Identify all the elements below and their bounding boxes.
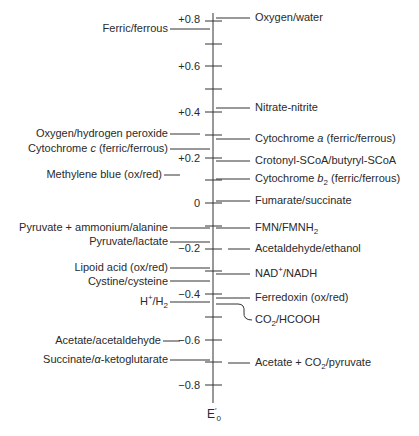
tick-label: +0.6 [160, 60, 200, 73]
couple-label: Cytochrome c (ferric/ferrous) [28, 142, 168, 155]
couple-label: Acetate/acetaldehyde [55, 334, 161, 347]
couple-label: Fumarate/succinate [255, 194, 352, 207]
axis-title: E′0 [207, 407, 221, 421]
couple-label: Pyruvate + ammonium/alanine [19, 221, 168, 234]
couple-label: Ferredoxin (ox/red) [255, 291, 349, 304]
couple-label: FMN/FMNH2 [255, 221, 318, 234]
couple-label: Cytochrome a (ferric/ferrous) [255, 132, 396, 145]
couple-label: Oxygen/water [255, 11, 323, 24]
couple-label: Crotonyl-SCoA/butyryl-SCoA [255, 154, 396, 167]
redox-potential-diagram: +0.8 +0.6 +0.4 +0.2 0 −0.2 −0.4 −0.6 −0.… [0, 0, 419, 436]
couple-label: Succinate/α-ketoglutarate [43, 353, 168, 366]
couple-label: Cystine/cysteine [88, 275, 168, 288]
couple-label: H+/H2 [140, 295, 168, 308]
couple-label: Acetate + CO2/pyruvate [255, 356, 371, 369]
couple-label: Oxygen/hydrogen peroxide [36, 127, 168, 140]
couple-label: Methylene blue (ox/red) [46, 168, 162, 181]
couple-label: Cytochrome b2 (ferric/ferrous) [255, 172, 400, 185]
tick-label: −0.6 [160, 334, 200, 347]
couple-label: NAD+/NADH [255, 267, 317, 280]
couple-label: Acetaldehyde/ethanol [255, 242, 361, 255]
couple-label: Ferric/ferrous [103, 22, 168, 35]
tick-label: −0.8 [160, 379, 200, 392]
couple-label: Pyruvate/lactate [89, 235, 168, 248]
tick-label: 0 [160, 197, 200, 210]
axis-and-leaders [0, 0, 419, 436]
tick-label: +0.4 [160, 106, 200, 119]
couple-label: CO2/HCOOH [255, 313, 320, 326]
couple-label: Lipoid acid (ox/red) [74, 261, 168, 274]
couple-label: Nitrate-nitrite [255, 101, 318, 114]
